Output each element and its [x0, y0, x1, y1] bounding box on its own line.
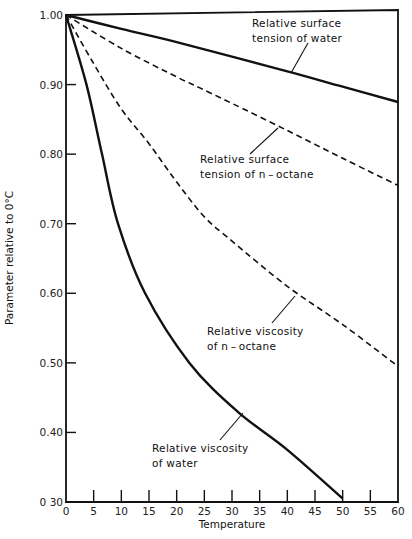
x-tick-label: 10 [115, 505, 128, 517]
x-tick-label: 25 [198, 505, 211, 517]
y-tick-label: 1.00 [40, 9, 63, 21]
x-tick-label: 45 [308, 505, 321, 517]
y-tick-label: 0 30 [40, 496, 63, 508]
series-octane-viscosity [66, 15, 398, 366]
annotation-water-surface-tension-text: tension of water [252, 32, 343, 44]
y-tick-label: 0.70 [40, 218, 63, 230]
line-chart: 1.000.900.800.700.600.500.400 30 0510152… [0, 0, 412, 539]
annotation-octane-surface-tension-text: tension of n – octane [200, 168, 314, 180]
plot-frame [66, 10, 398, 502]
annotation-octane-viscosity-leader-line [272, 296, 295, 323]
plot-border [66, 10, 398, 502]
x-tick-label: 5 [90, 505, 97, 517]
x-tick-label: 15 [142, 505, 155, 517]
annotation-octane-surface-tension-text: Relative surface [200, 153, 289, 165]
y-tick-label: 0.90 [40, 79, 63, 91]
annotation-water-surface-tension-text: Relative surface [252, 17, 341, 29]
x-tick-label: 20 [170, 505, 183, 517]
curve-annotations: Relative surfacetension of waterRelative… [152, 17, 343, 469]
annotation-water-viscosity-leader-line [220, 413, 243, 440]
annotation-water-surface-tension-leader-line [291, 43, 308, 73]
x-axis-title: Temperature [198, 518, 266, 530]
annotation-water-viscosity-text: of water [152, 457, 198, 469]
annotation-octane-viscosity-text: of n – octane [207, 340, 276, 352]
y-tick-label: 0.40 [40, 426, 63, 438]
y-axis-title: Parameter relative to 0°C [3, 191, 15, 325]
annotation-water-viscosity-text: Relative viscosity [152, 442, 249, 454]
x-axis-ticks: 051015202530354045505560 [63, 490, 405, 517]
x-tick-label: 50 [336, 505, 349, 517]
x-tick-label: 0 [63, 505, 70, 517]
y-tick-label: 0.80 [40, 148, 63, 160]
series-water-surface-tension [66, 15, 398, 102]
y-tick-label: 0.50 [40, 357, 63, 369]
x-tick-label: 60 [391, 505, 404, 517]
y-axis-ticks: 1.000.900.800.700.600.500.400 30 [40, 9, 76, 508]
x-tick-label: 30 [225, 505, 238, 517]
x-tick-label: 35 [253, 505, 266, 517]
x-tick-label: 55 [364, 505, 377, 517]
annotation-octane-viscosity-text: Relative viscosity [207, 325, 304, 337]
annotation-octane-surface-tension-leader-line [250, 128, 278, 154]
x-tick-label: 40 [281, 505, 294, 517]
y-tick-label: 0.60 [40, 287, 63, 299]
